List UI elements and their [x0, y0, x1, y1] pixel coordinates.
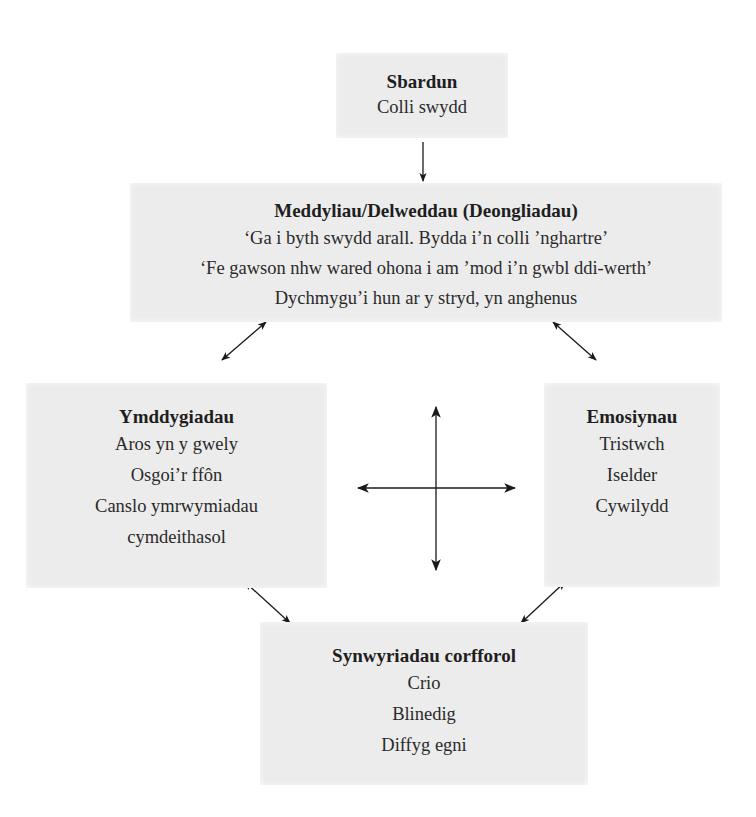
physical-sensations-box: Synwyriadau corfforol Crio Blinedig Diff… [260, 622, 588, 785]
thoughts-line: ‘Ga i byth swydd arall. Bydda i’n colli … [130, 223, 722, 253]
emotions-title: Emosiynau [544, 404, 720, 429]
arrow-behaviours-physical [245, 582, 290, 623]
behaviours-title: Ymddygiadau [26, 404, 327, 429]
emotions-line: Tristwch [544, 429, 720, 460]
behaviours-line: Osgoi’r ffôn [26, 460, 327, 491]
arrow-emotions-physical [521, 582, 565, 623]
emotions-box: Emosiynau Tristwch Iselder Cywilydd [544, 383, 720, 587]
physical-line: Crio [260, 668, 588, 699]
behaviours-line: Aros yn y gwely [26, 429, 327, 460]
trigger-title: Sbardun [336, 69, 508, 94]
thoughts-line: ‘Fe gawson nhw wared ohona i am ’mod i’n… [130, 253, 722, 283]
behaviours-box: Ymddygiadau Aros yn y gwely Osgoi’r ffôn… [26, 383, 327, 588]
physical-line: Diffyg egni [260, 730, 588, 761]
physical-line: Blinedig [260, 699, 588, 730]
thoughts-title: Meddyliau/Delweddau (Deongliadau) [130, 198, 722, 223]
behaviours-line: cymdeithasol [26, 522, 327, 553]
behaviours-line: Canslo ymrwymiadau [26, 491, 327, 522]
trigger-line: Colli swydd [336, 94, 508, 121]
physical-title: Synwyriadau corfforol [260, 643, 588, 668]
arrow-thoughts-behaviours [222, 322, 266, 360]
thoughts-box: Meddyliau/Delweddau (Deongliadau) ‘Ga i … [130, 183, 722, 322]
emotions-line: Iselder [544, 460, 720, 491]
thoughts-line: Dychmygu’i hun ar y stryd, yn anghenus [130, 283, 722, 313]
trigger-box: Sbardun Colli swydd [336, 53, 508, 138]
emotions-line: Cywilydd [544, 491, 720, 522]
arrow-thoughts-emotions [553, 322, 596, 360]
